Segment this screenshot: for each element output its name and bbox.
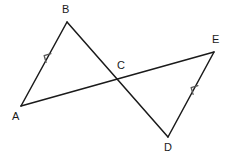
geometry-figure: A B C D E [0,0,232,164]
geometry-canvas [0,0,232,164]
vertex-label-a: A [12,111,19,122]
vertex-label-b: B [62,4,69,15]
vertex-label-d: D [164,142,172,153]
vertex-label-c: C [117,60,125,71]
vertex-label-e: E [212,34,219,45]
